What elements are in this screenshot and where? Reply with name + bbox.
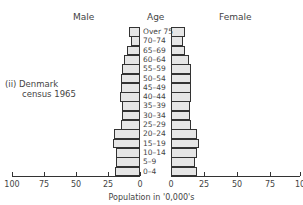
tick-mark [140, 172, 141, 176]
bar-male [115, 167, 140, 177]
bar-male [116, 157, 140, 167]
age-group-label: 55–59 [141, 64, 173, 73]
tick-label: 50 [71, 180, 81, 189]
tick-label: 75 [39, 180, 49, 189]
tick-label: 100 [4, 180, 19, 189]
tick-mark [44, 172, 45, 176]
header-male: Male [73, 12, 94, 22]
x-axis-left [12, 176, 140, 177]
age-group-label: 25–29 [141, 120, 173, 129]
x-axis-label: Population in '0,000's [0, 193, 303, 202]
age-group-label: Over 75 [141, 27, 173, 36]
bar-female [171, 111, 190, 121]
tick-mark [171, 172, 172, 176]
tick-label: 25 [199, 180, 209, 189]
tick-mark [270, 172, 271, 176]
tick-label: 25 [103, 180, 113, 189]
age-group-label: 20–24 [141, 129, 173, 138]
age-group-label: 30–34 [141, 111, 173, 120]
note-line-1: (ii) Denmark [5, 79, 76, 89]
age-group-label: 45–49 [141, 83, 173, 92]
bar-male [122, 111, 140, 121]
age-group-label: 5–9 [141, 157, 173, 166]
tick-label: 50 [232, 180, 242, 189]
tick-label: 0 [168, 180, 173, 189]
tick-label: 10 [295, 180, 303, 189]
bar-female [171, 157, 195, 167]
header-age: Age [147, 12, 164, 22]
age-group-label: 10–14 [141, 148, 173, 157]
age-group-label: 70–74 [141, 36, 173, 45]
tick-mark [204, 172, 205, 176]
tick-mark [237, 172, 238, 176]
age-group-label: 50–54 [141, 74, 173, 83]
tick-mark [76, 172, 77, 176]
note-line-2: census 1965 [5, 89, 76, 99]
age-group-label: 65–69 [141, 46, 173, 55]
tick-mark [12, 172, 13, 176]
tick-label: 75 [265, 180, 275, 189]
x-axis-right [171, 176, 300, 177]
tick-label: 0 [137, 180, 142, 189]
age-group-label: 60–64 [141, 55, 173, 64]
header-female: Female [219, 12, 252, 22]
bar-female [171, 64, 191, 74]
bar-female [171, 167, 197, 177]
age-group-label: 35–39 [141, 101, 173, 110]
chart-note: (ii) Denmark census 1965 [5, 79, 76, 99]
age-group-label: 40–44 [141, 92, 173, 101]
age-group-label: 15–19 [141, 139, 173, 148]
age-group-label: 0–4 [141, 167, 173, 176]
tick-mark [300, 172, 301, 176]
bar-male [122, 64, 140, 74]
tick-mark [108, 172, 109, 176]
